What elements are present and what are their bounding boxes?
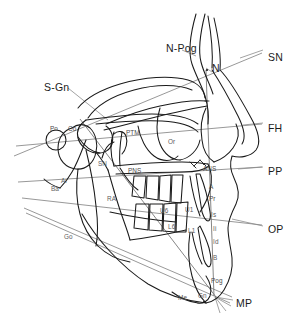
- label-n-pog: N-Pog: [166, 43, 197, 54]
- skull-tracing: [44, 14, 259, 303]
- upper-premolar: [171, 175, 183, 203]
- landmark-label-me: Me: [178, 295, 187, 301]
- plane-label-pp: PP: [268, 166, 282, 177]
- landmark-label-ba: Ba: [51, 186, 59, 192]
- landmark-label-po: Po: [50, 126, 58, 132]
- mp-plane-line: [24, 208, 232, 297]
- dot-menton: [203, 301, 205, 303]
- landmark-label-id: Id: [213, 239, 219, 245]
- landmark-label-pr: Pr: [209, 196, 216, 202]
- landmark-label-b: B: [213, 255, 217, 261]
- plane-label-fh: FH: [268, 123, 282, 134]
- zygomatic-lower: [96, 121, 198, 132]
- sn-plane-line: [14, 53, 262, 156]
- landmark-label-pns: PNS: [128, 168, 141, 174]
- plane-label-mp: MP: [236, 298, 252, 309]
- landmark-label-or: Or: [168, 139, 175, 145]
- landmark-label-sn-sella-nasion: SN: [98, 161, 107, 167]
- landmark-label-co: Co: [68, 126, 76, 132]
- label-leader-lines: [68, 50, 263, 313]
- plane-label-sn: SN: [268, 52, 283, 63]
- gonion-angle: [98, 246, 130, 262]
- landmark-label-ar: Ar: [61, 178, 68, 184]
- upper-molar-3: [159, 175, 171, 202]
- label-s-gn: S-Gn: [44, 82, 69, 93]
- plane-label-op: OP: [268, 224, 284, 235]
- ramus-posterior-border: [77, 169, 98, 246]
- landmark-label-u1: U1: [185, 207, 193, 213]
- orbital-rim: [180, 140, 200, 160]
- dot-nasion: [206, 69, 208, 71]
- tracing-canvas: [0, 0, 307, 330]
- nasal-bone: [212, 70, 244, 144]
- landmark-label-ra: RA: [107, 196, 116, 202]
- op-plane-line: [22, 198, 262, 225]
- cephalometric-tracing-figure: SN FH PP OP MP N-Pog N S-Gn Po Co PTM Or…: [0, 0, 307, 330]
- lower-incisor-root: [192, 232, 202, 264]
- pharyngeal-wall: [86, 150, 98, 246]
- upper-molar-2: [146, 176, 159, 200]
- landmark-label-ans: ANS: [203, 166, 216, 172]
- s-gn-y-axis: [80, 119, 216, 297]
- landmark-ticks: [190, 101, 209, 168]
- landmark-label-is: Is: [211, 212, 216, 218]
- frontal-bone-slope: [208, 16, 212, 68]
- landmark-label-ptm: PTM: [126, 130, 140, 136]
- landmark-label-go: Go: [64, 234, 73, 240]
- landmark-label-u6: U6: [160, 208, 168, 214]
- landmark-label-l6: L6: [168, 224, 175, 230]
- landmark-label-pog: Pog: [211, 278, 223, 284]
- s-gn-line: [80, 119, 216, 297]
- landmark-label-l1: L1: [188, 228, 195, 234]
- landmark-label-a: A: [209, 184, 213, 190]
- landmark-label-gn: Gn: [198, 293, 207, 299]
- label-n: N: [212, 63, 220, 74]
- landmark-label-ii: Ii: [213, 226, 216, 232]
